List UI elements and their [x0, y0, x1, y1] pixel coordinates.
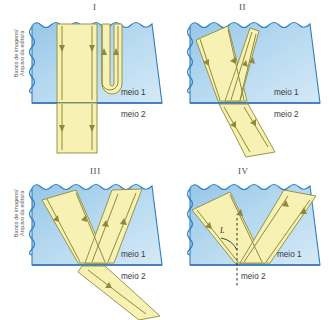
medium-1-label-panel-1: meio 1 [121, 88, 146, 97]
credit-line-top: Banco de imagens/ Arquivo da editora [13, 0, 25, 106]
panel-label-1: I [93, 2, 97, 12]
optics-refraction-figure: Banco de imagens/ Arquivo da editora Ban… [0, 0, 329, 320]
medium-1-label-panel-3: meio 1 [121, 250, 146, 259]
incident-wide-beam-1 [57, 24, 97, 104]
panel-label-4: IV [238, 166, 249, 176]
medium-2-label-panel-4: meio 2 [241, 272, 266, 281]
medium-1-label-panel-2: meio 1 [274, 88, 299, 97]
figure-canvas [0, 0, 329, 320]
panel-2 [188, 23, 321, 158]
limit-angle-label: L [220, 226, 224, 235]
medium-2-label-panel-2: meio 2 [274, 110, 299, 119]
credit-line-bottom: Banco de imagens/ Arquivo da editora [13, 160, 25, 266]
panel-label-3: III [90, 166, 101, 176]
medium-2-label-panel-3: meio 2 [121, 272, 146, 281]
panel-label-2: II [239, 2, 246, 12]
medium-2-label-panel-1: meio 2 [121, 110, 146, 119]
medium-1-label-panel-4: meio 1 [277, 250, 302, 259]
